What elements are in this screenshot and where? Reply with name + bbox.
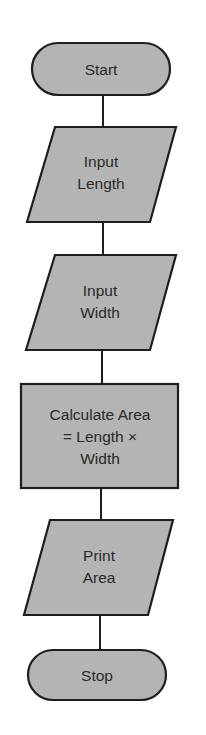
print-area-io: Print Area	[24, 520, 173, 615]
input-length-label-line1: Input	[84, 153, 119, 170]
start-label: Start	[85, 61, 118, 78]
stop-terminator: Stop	[28, 650, 166, 700]
calculate-label-line2: = Length ×	[63, 428, 137, 445]
print-area-label-line2: Area	[83, 569, 116, 586]
input-length-label-line2: Length	[77, 175, 124, 192]
calculate-area-process: Calculate Area = Length × Width	[21, 384, 178, 488]
input-width-label-line2: Width	[80, 304, 120, 321]
input-width-io: Input Width	[26, 255, 176, 350]
start-terminator: Start	[32, 43, 170, 95]
input-width-label-line1: Input	[83, 282, 118, 299]
print-area-label-line1: Print	[83, 547, 116, 564]
calculate-label-line3: Width	[80, 450, 120, 467]
stop-label: Stop	[81, 667, 113, 684]
calculate-label-line1: Calculate Area	[50, 406, 151, 423]
input-length-io: Input Length	[27, 127, 176, 222]
flowchart: Start Input Length Input Width Calculate…	[0, 0, 206, 735]
